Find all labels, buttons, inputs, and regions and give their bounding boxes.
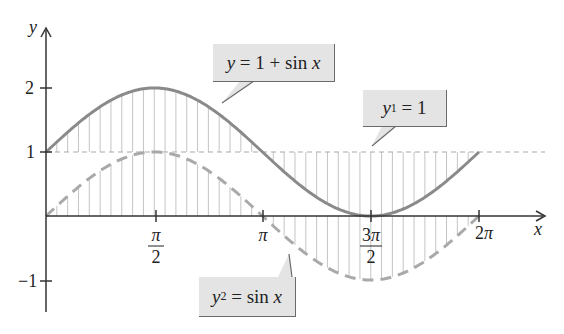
- callout-y2-var: y: [212, 286, 220, 308]
- svg-text:3π: 3π: [362, 225, 381, 245]
- callout-y1-rhs: = 1: [402, 97, 427, 119]
- svg-text:2: 2: [367, 247, 376, 267]
- svg-text:2π: 2π: [475, 223, 494, 243]
- callout-y2-sub: 2: [220, 289, 226, 304]
- y-axis-label: y: [29, 17, 37, 38]
- svg-text:2: 2: [152, 247, 161, 267]
- x-axis-label: x: [534, 219, 542, 240]
- y-tick-2: 2: [25, 78, 34, 99]
- callout-sum-rhs: 1 + sin: [255, 52, 307, 74]
- x-tick-labels: π 2 π 3π 2 2π: [148, 223, 494, 267]
- callout-y2-var2: x: [274, 286, 282, 308]
- y-tick-1: 1: [26, 142, 35, 163]
- callout-y2-rhs: = sin: [231, 286, 269, 308]
- svg-text:π: π: [258, 225, 268, 245]
- y-tick-neg1: −1: [18, 271, 37, 292]
- callout-sum-lhs: y: [227, 52, 235, 74]
- callout-y-sum: y = 1 + sin x: [213, 44, 335, 82]
- callout-sum-var: x: [312, 52, 320, 74]
- callout-y2: y2 = sin x: [199, 277, 296, 317]
- callout-y1-sub: 1: [391, 101, 397, 116]
- callout-y1: y1 = 1: [363, 90, 447, 127]
- svg-text:π: π: [151, 225, 161, 245]
- callout-y1-var: y: [382, 97, 390, 119]
